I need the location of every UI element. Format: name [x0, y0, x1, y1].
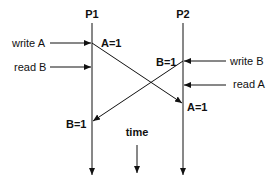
- message-label-p2-send: B=1: [156, 56, 177, 68]
- event-p2-write: write B: [229, 55, 264, 67]
- message-timing-diagram: P1 P2 write A read B write B read A A=1 …: [0, 0, 277, 186]
- message-label-p1-send: A=1: [101, 37, 122, 49]
- event-p2-read: read A: [233, 78, 265, 90]
- event-p1-write: write A: [11, 37, 46, 49]
- event-p1-read: read B: [14, 61, 46, 73]
- message-label-p2-recv: A=1: [187, 101, 208, 113]
- process-label-p1: P1: [85, 8, 98, 20]
- time-label: time: [126, 126, 149, 138]
- message-label-p1-recv: B=1: [66, 118, 87, 130]
- message-a-p1-to-p2: [92, 43, 182, 103]
- message-b-p2-to-p1: [93, 61, 183, 121]
- process-label-p2: P2: [176, 8, 189, 20]
- diagram-svg: P1 P2 write A read B write B read A A=1 …: [0, 0, 277, 186]
